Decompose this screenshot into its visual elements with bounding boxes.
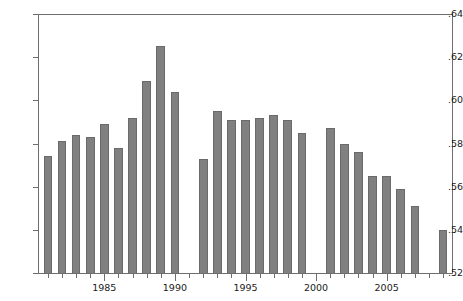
- bar: [439, 230, 448, 273]
- bar: [241, 120, 250, 273]
- bar: [382, 176, 391, 273]
- x-axis-tick-major: [104, 274, 105, 281]
- bar: [142, 81, 151, 273]
- bar: [199, 159, 208, 273]
- x-axis-tick-minor: [373, 274, 374, 278]
- x-axis-tick-minor: [429, 274, 430, 278]
- x-axis-tick-major: [316, 274, 317, 281]
- bar: [368, 176, 377, 273]
- x-axis-tick-minor: [90, 274, 91, 278]
- x-axis-tick-label: 2005: [375, 283, 399, 293]
- x-axis-tick-minor: [274, 274, 275, 278]
- bar: [171, 92, 180, 273]
- bar: [128, 118, 137, 273]
- x-axis-tick-minor: [443, 274, 444, 278]
- bar: [283, 120, 292, 273]
- bar: [100, 124, 109, 273]
- bar: [326, 128, 335, 273]
- x-axis-tick-minor: [62, 274, 63, 278]
- bar: [227, 120, 236, 273]
- x-axis-tick-label: 1985: [92, 283, 116, 293]
- x-axis-tick-minor: [260, 274, 261, 278]
- bar: [156, 46, 165, 273]
- x-axis-tick-minor: [189, 274, 190, 278]
- bar: [114, 148, 123, 273]
- x-axis-tick-label: 1990: [163, 283, 187, 293]
- bar: [58, 141, 67, 273]
- x-axis-tick-minor: [76, 274, 77, 278]
- x-axis-tick-minor: [203, 274, 204, 278]
- x-axis-tick-minor: [330, 274, 331, 278]
- bar: [213, 111, 222, 273]
- x-axis-tick-minor: [302, 274, 303, 278]
- bar: [340, 144, 349, 274]
- x-axis-tick-major: [246, 274, 247, 281]
- bar: [44, 156, 53, 273]
- bar-chart: .52.54.56.58.60.62.64 198519901995200020…: [0, 0, 463, 301]
- x-axis-tick-minor: [147, 274, 148, 278]
- x-axis-tick-minor: [288, 274, 289, 278]
- bar: [411, 206, 420, 273]
- x-axis-tick-minor: [118, 274, 119, 278]
- x-axis-tick-label: 1995: [233, 283, 257, 293]
- x-axis-tick-minor: [401, 274, 402, 278]
- bar: [354, 152, 363, 273]
- x-axis-tick-minor: [231, 274, 232, 278]
- bar: [396, 189, 405, 273]
- bar: [255, 118, 264, 273]
- x-axis-tick-minor: [358, 274, 359, 278]
- x-axis-tick-minor: [48, 274, 49, 278]
- x-axis-tick-major: [387, 274, 388, 281]
- x-axis-tick-minor: [133, 274, 134, 278]
- bar: [298, 133, 307, 273]
- bar: [72, 135, 81, 273]
- x-axis-tick-major: [175, 274, 176, 281]
- x-axis-tick-minor: [344, 274, 345, 278]
- x-axis-tick-minor: [161, 274, 162, 278]
- bar: [86, 137, 95, 273]
- bar: [269, 115, 278, 273]
- x-axis-tick-minor: [217, 274, 218, 278]
- bars-group: [38, 14, 453, 273]
- x-axis-tick-minor: [415, 274, 416, 278]
- x-axis-tick-label: 2000: [304, 283, 328, 293]
